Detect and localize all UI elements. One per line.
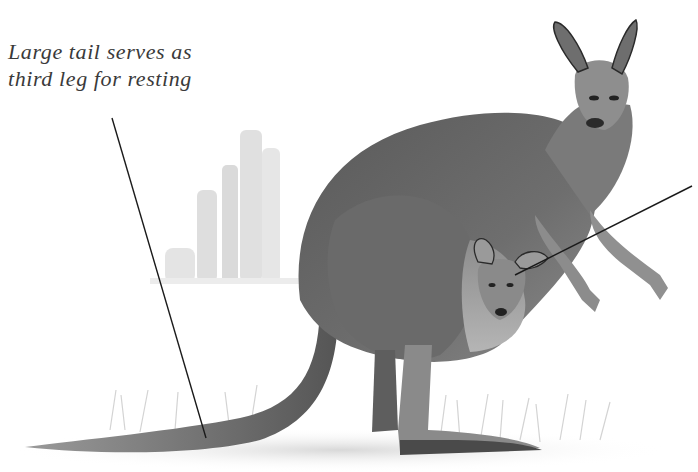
adult-eye-left <box>589 96 599 101</box>
annotation-tail-line-1: Large tail serves as <box>8 38 192 65</box>
hind-leg-back <box>372 350 398 432</box>
adult-ear-right <box>612 20 637 74</box>
rock-formation <box>150 130 300 284</box>
adult-ear-left <box>554 22 588 72</box>
adult-arm-right <box>590 210 668 300</box>
annotation-tail: Large tail serves as third leg for resti… <box>8 38 192 92</box>
ground <box>10 385 670 472</box>
kangaroo-diagram: Large tail serves as third leg for resti… <box>0 0 698 472</box>
annotation-tail-line-2: third leg for resting <box>8 65 192 92</box>
adult-nose <box>586 118 604 128</box>
adult-eye-right <box>609 96 619 101</box>
